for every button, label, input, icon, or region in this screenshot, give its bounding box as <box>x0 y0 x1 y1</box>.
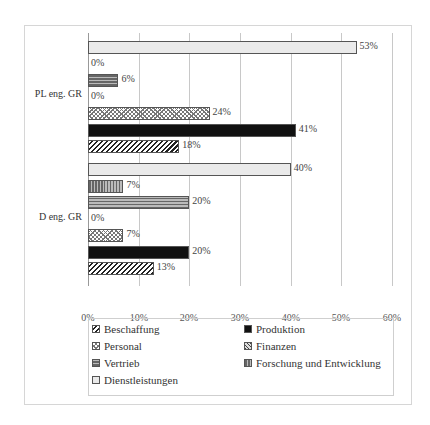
category-label-pl: PL eng. GR <box>22 88 82 99</box>
bar <box>88 107 210 120</box>
value-label: 13% <box>157 261 175 272</box>
gridline <box>291 33 292 286</box>
gridline <box>392 33 393 286</box>
bar <box>88 196 189 209</box>
vertical-stripes-swatch-icon <box>244 359 252 367</box>
fine-diagonal-swatch-icon <box>244 342 252 350</box>
bar <box>88 262 154 275</box>
legend-item-beschaffung: Beschaffung <box>92 323 159 335</box>
value-label: 0% <box>91 90 104 101</box>
dotted-swatch-icon <box>92 376 100 384</box>
horizontal-stripes-swatch-icon <box>92 359 100 367</box>
bar <box>88 124 296 137</box>
legend-item-finanzen: Finanzen <box>244 340 296 352</box>
legend: Beschaffung Produktion Personal Finanzen… <box>88 318 394 396</box>
bar <box>88 229 123 242</box>
legend-item-dienstleistungen: Dienstleistungen <box>92 374 178 386</box>
value-label: 40% <box>294 162 312 173</box>
bar <box>88 163 291 176</box>
legend-item-fue: Forschung und Entwicklung <box>244 357 381 369</box>
category-label-d: D eng. GR <box>22 211 82 222</box>
value-label: 20% <box>192 245 210 256</box>
value-label: 41% <box>299 123 317 134</box>
value-label: 6% <box>121 73 134 84</box>
bar <box>88 74 118 87</box>
diagonal-hatch-swatch-icon <box>92 325 100 333</box>
gridline <box>189 33 190 286</box>
gridline <box>240 33 241 286</box>
bar <box>88 41 357 54</box>
value-label: 0% <box>91 57 104 68</box>
legend-item-produktion: Produktion <box>244 323 305 335</box>
value-label: 0% <box>91 212 104 223</box>
value-label: 7% <box>126 228 139 239</box>
value-label: 18% <box>182 139 200 150</box>
bar <box>88 246 189 259</box>
legend-item-personal: Personal <box>92 340 142 352</box>
value-label: 53% <box>360 40 378 51</box>
bar <box>88 180 123 193</box>
cross-hatch-swatch-icon <box>92 342 100 350</box>
value-label: 7% <box>126 179 139 190</box>
bar <box>88 140 179 153</box>
legend-item-vertrieb: Vertrieb <box>92 357 139 369</box>
gridline <box>341 33 342 286</box>
value-label: 24% <box>213 106 231 117</box>
solid-black-swatch-icon <box>244 325 252 333</box>
plot-area: 53%0%6%0%24%41%18%40%7%20%0%7%20%13% <box>88 33 392 286</box>
value-label: 20% <box>192 195 210 206</box>
